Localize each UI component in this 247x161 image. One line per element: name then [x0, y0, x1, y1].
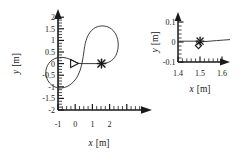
inset-x-ticklabel: 1.4 — [173, 69, 183, 78]
main-x-ticklabel: 2 — [108, 120, 112, 129]
inset-y-major-ticks — [178, 22, 184, 62]
main-x-ticklabel: -1 — [55, 120, 62, 129]
main-y-ticklabel: -0.5 — [42, 71, 55, 80]
main-y-ticklabel: -1.5 — [42, 94, 55, 103]
inset-x-ticklabel: 1.5 — [195, 69, 205, 78]
main-x-ticklabel: 1 — [90, 120, 94, 129]
inset-x-ticklabels: 1.4 1.5 1.6 — [173, 69, 227, 78]
main-yaxis-label: y[m] — [11, 53, 21, 75]
inset-y-ticklabel: 0 — [172, 38, 176, 47]
inset-x-major-ticks — [178, 57, 222, 63]
main-y-major-ticks — [58, 17, 64, 110]
main-xaxis-label: x[m] — [88, 138, 110, 148]
main-y-ticklabel: 1 — [51, 36, 55, 45]
main-y-ticklabel: 1.5 — [45, 25, 55, 34]
plot-svg: 2 1.5 1 0.5 0 -0.5 -1 -1.5 -2 — [0, 0, 247, 161]
inset-x-ticklabel: 1.6 — [217, 69, 227, 78]
target-marker-cross — [97, 59, 105, 68]
main-x-major-ticks — [58, 104, 127, 110]
main-y-ticklabel: 0.5 — [45, 48, 55, 57]
main-x-ticklabels: -1 0 1 2 — [55, 120, 112, 129]
main-y-ticklabel: 2 — [51, 13, 55, 22]
main-y-ticklabel: -2 — [48, 106, 55, 115]
inset-y-ticklabel: 0.1 — [166, 18, 176, 27]
inset-y-ticklabel: -0.1 — [163, 58, 176, 67]
main-y-axis — [54, 9, 62, 110]
start-marker-triangle — [71, 60, 79, 68]
inset-xaxis-label: x[m] — [189, 84, 211, 94]
lemniscate-path — [46, 26, 118, 88]
main-trajectory-plot: 2 1.5 1 0.5 0 -0.5 -1 -1.5 -2 — [11, 9, 152, 148]
inset-y-axis — [175, 12, 182, 62]
main-y-ticklabel: -1 — [48, 83, 55, 92]
inset-yaxis-label: y[m] — [150, 32, 160, 54]
inset-y-ticklabels: 0.1 0 -0.1 — [163, 18, 176, 67]
inset-zoom-plot: 0.1 0 -0.1 1.4 1.5 1.6 — [150, 12, 230, 94]
figure-canvas: 2 1.5 1 0.5 0 -0.5 -1 -1.5 -2 — [0, 0, 247, 161]
main-x-ticklabel: 0 — [73, 120, 77, 129]
